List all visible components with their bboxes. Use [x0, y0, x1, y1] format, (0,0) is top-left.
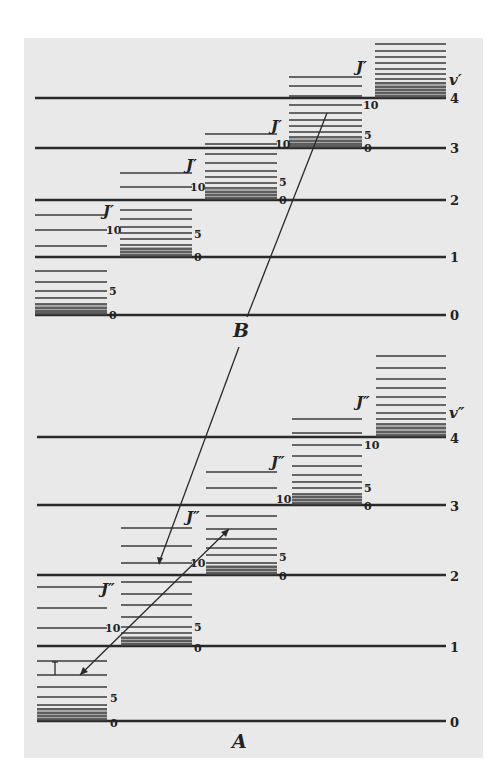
lower-dense-band-v2 [206, 565, 277, 575]
lower-j0-label-v0: 0 [110, 717, 118, 730]
lower-jdprime-label-2: J″ [183, 508, 200, 526]
lower-jdprime-label-4: J″ [353, 393, 370, 411]
upper-j0-label-v1: 0 [194, 251, 202, 264]
lower-state-label-A: A [230, 730, 247, 752]
upper-dense-band-v2 [205, 189, 277, 200]
lower-v-label-4: 4 [450, 431, 459, 446]
lower-j0-label-v3: 0 [364, 500, 372, 513]
lower-j5-label-v0: 5 [110, 692, 118, 705]
upper-jprime-label-2: J′ [183, 156, 197, 174]
upper-j0-label-v3: 0 [364, 142, 372, 155]
upper-dense-band-v4 [375, 82, 446, 98]
upper-j10-label-v2: 10 [190, 181, 206, 194]
upper-jprime-label-4: J′ [353, 58, 367, 76]
lower-v-label-1: 1 [450, 640, 459, 655]
lower-jdprime-label-1: J″ [98, 580, 115, 598]
lower-dense-band-v3 [292, 494, 362, 505]
upper-jprime-label-3: J′ [268, 117, 282, 135]
lower-v-label-2: 2 [450, 569, 459, 584]
lower-j5-label-v3: 5 [364, 482, 372, 495]
upper-j5-label-v2: 5 [279, 176, 287, 189]
upper-vprime-axis-label: v′ [449, 71, 462, 89]
lower-j5-label-v1: 5 [194, 621, 202, 634]
lower-j0-label-v1: 0 [194, 642, 202, 655]
upper-j0-label-v0: 0 [109, 309, 117, 322]
lower-vdprime-axis-label: v″ [449, 404, 465, 422]
paper-background [24, 38, 483, 758]
lower-j10-label-v3: 10 [364, 439, 380, 452]
upper-j10-label-v4: 10 [363, 99, 379, 112]
lower-v-label-3: 3 [450, 499, 459, 514]
lower-dense-band-v0 [37, 708, 107, 721]
upper-j10-label-v3: 10 [275, 138, 291, 151]
upper-state-label-B: B [232, 319, 249, 341]
upper-dense-band-v0 [35, 304, 107, 315]
lower-dense-band-v4 [376, 424, 446, 437]
upper-v-label-4: 4 [450, 91, 459, 106]
upper-j5-label-v1: 5 [194, 228, 202, 241]
upper-v-label-2: 2 [450, 193, 459, 208]
upper-j0-label-v2: 0 [279, 194, 287, 207]
upper-j5-label-v3: 5 [364, 129, 372, 142]
upper-dense-band-v3 [289, 137, 362, 148]
upper-v-label-3: 3 [450, 141, 459, 156]
upper-v-label-1: 1 [450, 250, 459, 265]
lower-j10-label-v2: 10 [276, 493, 292, 506]
upper-j5-label-v0: 5 [109, 285, 117, 298]
lower-j5-label-v2: 5 [279, 551, 287, 564]
lower-dense-band-v1 [121, 636, 192, 646]
upper-jprime-label-1: J′ [100, 202, 114, 220]
upper-v-label-0: 0 [450, 308, 459, 323]
lower-v-label-0: 0 [450, 715, 459, 730]
lower-j0-label-v2: 0 [279, 570, 287, 583]
upper-dense-band-v1 [120, 247, 192, 257]
lower-j10-label-v0: 10 [105, 622, 121, 635]
upper-j10-label-v1: 10 [106, 224, 122, 237]
lower-jdprime-label-3: J″ [268, 453, 285, 471]
energy-level-diagram: 0 5 0 5 10 0 5 10 0 5 10 10 J′ J′ J′ J′ … [0, 0, 502, 783]
